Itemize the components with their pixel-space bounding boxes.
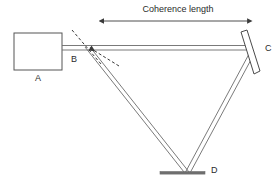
label-d: D [211, 165, 218, 175]
label-c: C [265, 43, 272, 53]
label-a: A [35, 73, 41, 83]
coherence-length-label: Coherence length [142, 4, 213, 14]
diagram-canvas: Coherence length A B C D [0, 0, 276, 184]
beam-b-to-d-group [85, 47, 189, 172]
beam-c-to-d-group [185, 54, 253, 173]
optical-interferometer-diagram: Coherence length A B C D [0, 0, 276, 184]
mirror-d-group [160, 172, 205, 175]
mirror-c-slab [241, 30, 260, 74]
mirror-d-bar [160, 172, 205, 175]
beam-ray-cd-left [185, 54, 249, 173]
laser-source-group [14, 33, 62, 70]
label-b: B [71, 54, 77, 64]
beam-splitter-direction-arrow [90, 48, 119, 66]
beam-ray-bd-right [90, 47, 189, 172]
beam-ray-cd-right [190, 56, 253, 173]
mirror-c-group [241, 30, 260, 74]
beam-ray-bd-left [85, 47, 184, 172]
laser-source-box [14, 33, 62, 70]
